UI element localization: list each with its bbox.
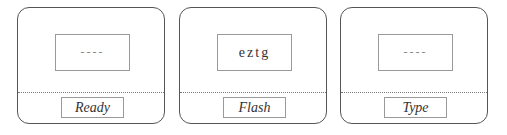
display-box: ----: [55, 34, 130, 71]
display-box: ----: [378, 34, 453, 71]
dotted-divider: [180, 92, 326, 93]
dotted-divider: [341, 92, 487, 93]
panel-flash: eztg Flash: [179, 7, 327, 124]
panel-type: ---- Type: [340, 7, 488, 124]
ready-button[interactable]: Ready: [61, 97, 124, 118]
flash-button[interactable]: Flash: [223, 97, 286, 118]
display-box: eztg: [217, 34, 292, 71]
panel-ready: ---- Ready: [17, 7, 165, 124]
type-button[interactable]: Type: [384, 97, 447, 118]
dotted-divider: [18, 92, 164, 93]
